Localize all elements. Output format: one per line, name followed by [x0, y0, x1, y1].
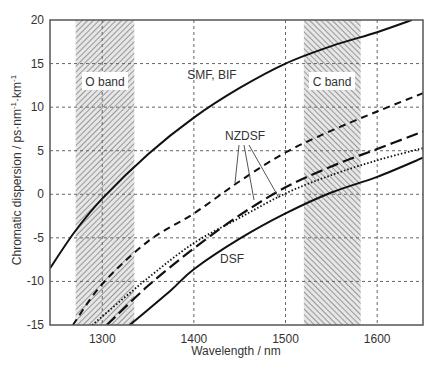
y-tick-label: -5 [33, 231, 44, 245]
o-band-label: O band [85, 75, 124, 89]
o-band-region [76, 20, 135, 325]
c-band-label: C band [313, 75, 352, 89]
y-tick-label: 5 [37, 144, 44, 158]
nzdsf-leader-lines [235, 145, 279, 200]
nzdsf-dotted-curve [92, 148, 423, 325]
y-tick-label: 0 [37, 187, 44, 201]
y-tick-label: 10 [31, 100, 45, 114]
y-tick-label: 15 [31, 57, 45, 71]
y-tick-label: 20 [31, 13, 45, 27]
nzdsf-label: NZDSF [225, 129, 265, 143]
y-tick-labels: -15-10-505101520 [27, 13, 45, 332]
dsf-curve [130, 158, 423, 325]
x-tick-label: 1600 [364, 332, 391, 346]
dispersion-chart: -15-10-505101520 1300140015001600 O band… [0, 0, 440, 370]
y-tick-label: -15 [27, 318, 45, 332]
dsf-label: DSF [220, 252, 244, 266]
nzdsf-long-dash-curve [107, 132, 423, 325]
x-tick-label: 1300 [89, 332, 116, 346]
x-axis-label: Wavelength / nm [191, 344, 281, 358]
y-tick-label: -10 [27, 274, 45, 288]
smf-bif-label: SMF, BIF [187, 68, 236, 82]
y-axis-label: Chromatic dispersion / ps·nm-1·km-1 [9, 74, 24, 265]
c-band-region [304, 20, 361, 325]
